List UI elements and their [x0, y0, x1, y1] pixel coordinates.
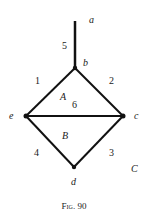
edge-b-e	[26, 68, 75, 116]
vertex-label-a: a	[89, 14, 94, 25]
vertex-label-d: d	[71, 176, 77, 187]
edge-label-3: 3	[109, 147, 114, 158]
edge-b-c	[75, 68, 123, 116]
edge-label-6: 6	[72, 99, 77, 110]
edge-e-d	[26, 116, 74, 167]
vertex-d	[72, 165, 76, 169]
graph-diagram: a b e c d 5 1 2 6 4 3 A B C Fig. 90	[0, 0, 148, 219]
figure-caption: Fig. 90	[62, 201, 87, 211]
edge-label-1: 1	[35, 75, 40, 86]
vertex-b	[73, 66, 77, 70]
edge-label-4: 4	[34, 147, 39, 158]
vertex-c	[121, 114, 126, 119]
vertex-label-e: e	[9, 110, 14, 121]
region-label-a: A	[59, 91, 67, 102]
edge-label-2: 2	[109, 75, 114, 86]
vertex-e	[24, 114, 29, 119]
region-label-b: B	[62, 130, 68, 141]
region-label-c: C	[131, 163, 138, 174]
edge-c-d	[74, 116, 123, 167]
vertex-label-b: b	[83, 57, 88, 68]
vertex-label-c: c	[134, 110, 139, 121]
edge-label-5: 5	[62, 40, 67, 51]
